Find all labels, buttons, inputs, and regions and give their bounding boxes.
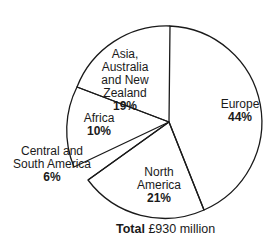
total-value: £930 million bbox=[148, 222, 215, 236]
label-north-america: North America 21% bbox=[128, 166, 190, 205]
label-asia-australia-nz-name: Asia, Australia and New Zealand bbox=[80, 48, 170, 100]
label-central-south-america-pct: 6% bbox=[4, 171, 100, 184]
label-central-south-america: Central and South America 6% bbox=[4, 145, 100, 184]
label-asia-australia-nz-pct: 19% bbox=[80, 100, 170, 113]
label-europe-pct: 44% bbox=[215, 111, 265, 124]
chart-total: Total £930 million bbox=[116, 222, 215, 236]
label-europe: Europe 44% bbox=[215, 98, 265, 124]
label-asia-australia-nz: Asia, Australia and New Zealand 19% bbox=[80, 48, 170, 113]
label-africa: Africa 10% bbox=[78, 112, 120, 138]
label-central-south-america-name: Central and South America bbox=[4, 145, 100, 171]
label-africa-pct: 10% bbox=[78, 125, 120, 138]
label-north-america-name: North America bbox=[128, 166, 190, 192]
label-north-america-pct: 21% bbox=[128, 192, 190, 205]
pie-chart: Europe 44% North America 21% Central and… bbox=[0, 0, 280, 239]
total-label: Total bbox=[116, 222, 145, 236]
